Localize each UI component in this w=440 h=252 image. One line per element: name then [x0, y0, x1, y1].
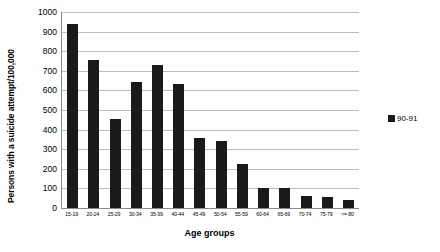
y-axis-tick-label: 900	[19, 27, 57, 36]
y-axis-tick-label: 0	[19, 204, 57, 213]
bar[interactable]	[301, 196, 312, 208]
x-axis-tick-label: 30-34	[125, 210, 146, 222]
bar[interactable]	[88, 60, 99, 208]
bar[interactable]	[322, 197, 333, 208]
y-axis-tick-label: 800	[19, 47, 57, 56]
y-axis-tick-labels: 10009008007006005004003002001000	[20, 12, 60, 208]
x-axis-tick-labels: 15-1920-2425-2930-3435-3940-4445-4950-54…	[61, 210, 358, 222]
bar-slot	[126, 12, 147, 208]
bar[interactable]	[258, 188, 269, 208]
bar-slot	[147, 12, 168, 208]
bar-slot	[295, 12, 316, 208]
x-axis-tick-label: 40-44	[167, 210, 188, 222]
x-axis-tick-label: 45-49	[188, 210, 209, 222]
x-axis-tick-label: 55-59	[231, 210, 252, 222]
bar[interactable]	[194, 138, 205, 208]
bar-slot	[317, 12, 338, 208]
y-axis-tick-label: 600	[19, 86, 57, 95]
y-axis-tick-label: 300	[19, 145, 57, 154]
x-axis-tick-label: 70-74	[294, 210, 315, 222]
bar[interactable]	[173, 84, 184, 208]
x-axis-tick-label: 50-54	[210, 210, 231, 222]
y-axis-tick-label: 200	[19, 165, 57, 174]
legend-label: 90-91	[397, 114, 417, 123]
y-axis-tick-label: 1000	[19, 8, 57, 17]
bar[interactable]	[237, 164, 248, 208]
x-axis-tick-label: 15-19	[61, 210, 82, 222]
x-axis-tick-label: 35-39	[146, 210, 167, 222]
y-axis-tick-label: 500	[19, 106, 57, 115]
bar-slot	[253, 12, 274, 208]
y-axis-tick-label: 100	[19, 184, 57, 193]
bar[interactable]	[152, 65, 163, 208]
bar-slot	[338, 12, 359, 208]
bar-slot	[168, 12, 189, 208]
bar[interactable]	[343, 200, 354, 208]
x-axis-tick-label: >= 80	[337, 210, 358, 222]
bars-layer	[62, 12, 359, 208]
bar-slot	[232, 12, 253, 208]
bar-chart: Persons with a suicide attempt/100,000 1…	[0, 0, 440, 252]
y-axis-tick-label: 700	[19, 67, 57, 76]
x-axis-tick-label: 20-24	[82, 210, 103, 222]
x-axis-tick-label: 75-79	[316, 210, 337, 222]
x-axis-tick-label: 25-29	[103, 210, 124, 222]
bar[interactable]	[279, 188, 290, 208]
bar[interactable]	[131, 82, 142, 208]
bar-slot	[104, 12, 125, 208]
bar-slot	[211, 12, 232, 208]
x-axis-tick-label: 65-69	[273, 210, 294, 222]
bar-slot	[83, 12, 104, 208]
bar[interactable]	[216, 141, 227, 208]
y-axis-tick-label: 400	[19, 125, 57, 134]
legend-swatch-icon	[388, 115, 395, 122]
bar-slot	[62, 12, 83, 208]
bar-slot	[189, 12, 210, 208]
plot-area	[61, 12, 359, 209]
chart-legend: 90-91	[388, 114, 417, 123]
bar[interactable]	[110, 119, 121, 208]
x-axis-title: Age groups	[61, 228, 358, 238]
x-axis-tick-label: 60-64	[252, 210, 273, 222]
bar-slot	[274, 12, 295, 208]
bar[interactable]	[67, 24, 78, 208]
